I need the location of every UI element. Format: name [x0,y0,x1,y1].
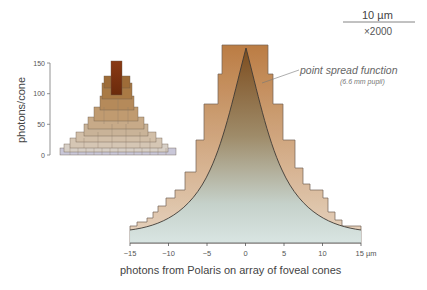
scale-bar-magnification: ×2000 [364,26,392,37]
main-x-tick-labels: −15 −10 −5 0 5 10 15 µm [124,249,377,258]
svg-text:100: 100 [33,90,45,97]
inset-histogram [60,61,176,155]
svg-text:10: 10 [318,249,326,258]
svg-text:5: 5 [282,249,286,258]
svg-text:0: 0 [243,249,247,258]
svg-text:−15: −15 [124,249,137,258]
inset-chart: 0 50 100 150 [33,60,176,159]
svg-text:15 µm: 15 µm [356,249,377,258]
psf-annotation-title: point spread function [300,64,397,76]
inset-y-ticks [47,63,50,155]
svg-text:50: 50 [37,121,45,128]
svg-text:−10: −10 [162,249,175,258]
inset-y-tick-labels: 0 50 100 150 [33,60,45,159]
figure-canvas: 0 50 100 150 [0,0,427,290]
main-x-ticks [130,243,361,246]
svg-text:−5: −5 [203,249,212,258]
psf-annotation-subtitle: (6.6 mm pupil) [340,78,385,85]
main-x-axis-label: photons from Polaris on array of foveal … [120,264,341,276]
inset-y-axis-label: photons/cone [15,77,27,143]
scale-bar-length-label: 10 µm [362,9,393,21]
svg-text:150: 150 [33,60,45,67]
svg-text:0: 0 [41,152,45,159]
